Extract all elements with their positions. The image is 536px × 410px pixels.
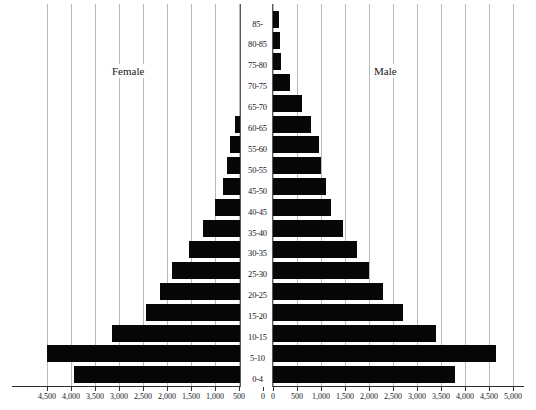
x-tick-label-left-4500: 4,500 — [38, 392, 56, 401]
tick-left-4500 — [47, 387, 48, 391]
x-tick-label-left-1000: 1,000 — [206, 392, 224, 401]
x-tick-label-right-2000: 2,000 — [360, 392, 378, 401]
bar-male-35-40 — [273, 220, 343, 237]
tick-right-0 — [273, 387, 274, 391]
bar-male-15-20 — [273, 304, 403, 321]
bar-male-55-60 — [273, 136, 319, 153]
tick-left-1500 — [191, 387, 192, 391]
age-group-label-0-4: 0-4 — [241, 374, 274, 384]
x-tick-label-right-0: 0 — [271, 392, 275, 401]
gridline-left-3500 — [95, 4, 96, 387]
tick-left-3500 — [95, 387, 96, 391]
age-group-label-25-30: 25-30 — [241, 269, 274, 279]
tick-left-0 — [263, 387, 264, 391]
tick-right-5000 — [513, 387, 514, 391]
bar-male-70-75 — [273, 74, 290, 91]
age-group-label-30-35: 30-35 — [241, 248, 274, 258]
x-tick-label-right-4500: 4,500 — [480, 392, 498, 401]
population-pyramid-chart: 0-45-1010-1515-2020-2525-3030-3535-4040-… — [0, 0, 536, 410]
age-group-label-10-15: 10-15 — [241, 332, 274, 342]
gridline-right-4500 — [489, 4, 490, 387]
age-group-label-20-25: 20-25 — [241, 290, 274, 300]
x-tick-label-left-3000: 3,000 — [110, 392, 128, 401]
gridline-right-5000 — [513, 4, 514, 387]
tick-right-2000 — [369, 387, 370, 391]
x-tick-label-right-1000: 1,000 — [312, 392, 330, 401]
x-tick-label-left-2500: 2,500 — [134, 392, 152, 401]
age-group-label-column: 0-45-1010-1515-2020-2525-3030-3535-4040-… — [240, 4, 273, 387]
age-group-label-45-50: 45-50 — [241, 186, 274, 196]
bar-male-45-50 — [273, 178, 326, 195]
age-group-label-70-75: 70-75 — [241, 81, 274, 91]
tick-right-2500 — [393, 387, 394, 391]
gridline-left-4000 — [71, 4, 72, 387]
age-group-label-85-: 85- — [241, 19, 274, 29]
age-group-label-5-10: 5-10 — [241, 353, 274, 363]
tick-left-4000 — [71, 387, 72, 391]
x-tick-label-left-4000: 4,000 — [62, 392, 80, 401]
tick-left-1000 — [215, 387, 216, 391]
bar-male-10-15 — [273, 325, 436, 342]
age-group-label-65-70: 65-70 — [241, 102, 274, 112]
x-tick-label-left-0: 0 — [261, 392, 265, 401]
female-series-label: Female — [108, 64, 148, 78]
age-group-label-50-55: 50-55 — [241, 165, 274, 175]
tick-left-2500 — [143, 387, 144, 391]
tick-right-4000 — [465, 387, 466, 391]
bar-male-50-55 — [273, 157, 321, 174]
bar-male-20-25 — [273, 283, 383, 300]
tick-right-3500 — [441, 387, 442, 391]
tick-right-500 — [297, 387, 298, 391]
male-series-label: Male — [370, 64, 401, 78]
x-tick-label-right-1500: 1,500 — [336, 392, 354, 401]
x-tick-label-left-500: 500 — [233, 392, 245, 401]
tick-right-1000 — [321, 387, 322, 391]
tick-right-3000 — [417, 387, 418, 391]
age-group-label-55-60: 55-60 — [241, 144, 274, 154]
bar-male-5-10 — [273, 345, 496, 362]
tick-left-2000 — [167, 387, 168, 391]
bar-male-25-30 — [273, 262, 369, 279]
tick-left-500 — [239, 387, 240, 391]
tick-right-4500 — [489, 387, 490, 391]
tick-left-3000 — [119, 387, 120, 391]
bar-male-80-85 — [273, 32, 280, 49]
x-tick-label-right-500: 500 — [291, 392, 303, 401]
x-tick-label-right-4000: 4,000 — [456, 392, 474, 401]
age-group-label-75-80: 75-80 — [241, 60, 274, 70]
age-group-label-80-85: 80-85 — [241, 39, 274, 49]
x-tick-label-right-2500: 2,500 — [384, 392, 402, 401]
bar-male-30-35 — [273, 241, 357, 258]
bar-male-40-45 — [273, 199, 331, 216]
bar-male-60-65 — [273, 116, 311, 133]
x-tick-label-left-3500: 3,500 — [86, 392, 104, 401]
x-tick-label-right-5000: 5,000 — [504, 392, 522, 401]
x-tick-label-left-1500: 1,500 — [182, 392, 200, 401]
gridline-left-4500 — [47, 4, 48, 387]
x-tick-label-right-3000: 3,000 — [408, 392, 426, 401]
bar-male-0-4 — [273, 366, 455, 383]
tick-right-1500 — [345, 387, 346, 391]
bar-male-65-70 — [273, 95, 302, 112]
age-group-label-15-20: 15-20 — [241, 311, 274, 321]
age-group-label-35-40: 35-40 — [241, 228, 274, 238]
x-tick-label-left-2000: 2,000 — [158, 392, 176, 401]
x-tick-label-right-3500: 3,500 — [432, 392, 450, 401]
age-group-label-40-45: 40-45 — [241, 207, 274, 217]
age-group-label-60-65: 60-65 — [241, 123, 274, 133]
bar-male-75-80 — [273, 53, 281, 70]
gridline-right-4000 — [465, 4, 466, 387]
gridline-right-3500 — [441, 4, 442, 387]
